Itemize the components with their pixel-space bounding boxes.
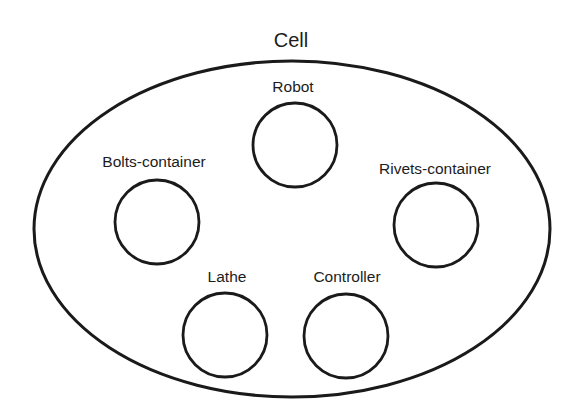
- rivets-container-label: Rivets-container: [379, 160, 491, 177]
- cell-diagram: Cell Robot Bolts-container Rivets-contai…: [0, 0, 578, 419]
- lathe-label: Lathe: [208, 268, 247, 285]
- node-bolts-container: Bolts-container: [102, 153, 205, 264]
- cell-title: Cell: [274, 29, 308, 51]
- bolts-container-label: Bolts-container: [102, 153, 205, 170]
- lathe-circle: [183, 293, 267, 377]
- node-rivets-container: Rivets-container: [379, 160, 491, 267]
- node-lathe: Lathe: [183, 268, 267, 377]
- node-robot: Robot: [253, 78, 337, 187]
- cell-ellipse: [34, 61, 550, 397]
- rivets-container-circle: [394, 183, 478, 267]
- robot-label: Robot: [272, 78, 314, 95]
- robot-circle: [253, 103, 337, 187]
- bolts-container-circle: [115, 180, 199, 264]
- controller-circle: [304, 294, 388, 378]
- node-controller: Controller: [304, 268, 388, 378]
- controller-label: Controller: [313, 268, 380, 285]
